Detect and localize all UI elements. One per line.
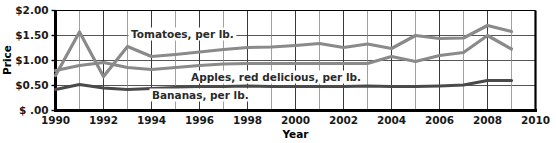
series-annotation-label: Bananas, per lb. (152, 89, 249, 101)
y-tick-label: $1.50 (15, 29, 48, 41)
y-tick-label: $1.00 (15, 54, 48, 66)
x-tick-label: 2002 (329, 114, 358, 126)
price-line-chart: $ .00$0.50$1.00$1.50$2.00 19901992199419… (0, 0, 556, 143)
y-tick-label: $0.50 (15, 79, 48, 91)
x-tick-label: 2010 (521, 114, 550, 126)
x-tick-label: 1996 (185, 114, 214, 126)
chart-canvas: $ .00$0.50$1.00$1.50$2.00 19901992199419… (0, 0, 556, 143)
series-annotation-label: Apples, red delicious, per lb. (191, 71, 361, 83)
series-annotation-label: Tomatoes, per lb. (131, 28, 234, 40)
x-tick-label: 2006 (425, 114, 454, 126)
y-axis-title: Price (1, 45, 13, 75)
x-axis-title: Year (281, 128, 309, 140)
x-tick-label: 1994 (137, 114, 166, 126)
y-axis-tick-labels: $ .00$0.50$1.00$1.50$2.00 (15, 4, 48, 116)
x-tick-label: 1990 (41, 114, 70, 126)
x-tick-label: 2008 (473, 114, 502, 126)
x-tick-label: 1992 (89, 114, 118, 126)
y-tick-label: $2.00 (15, 4, 48, 16)
x-tick-label: 2000 (281, 114, 310, 126)
x-axis-tick-labels: 1990199219941996199820002002200420062008… (41, 114, 550, 126)
x-tick-label: 2004 (377, 114, 406, 126)
vertical-gridlines (56, 11, 536, 111)
x-tick-label: 1998 (233, 114, 262, 126)
series-line (56, 26, 512, 77)
